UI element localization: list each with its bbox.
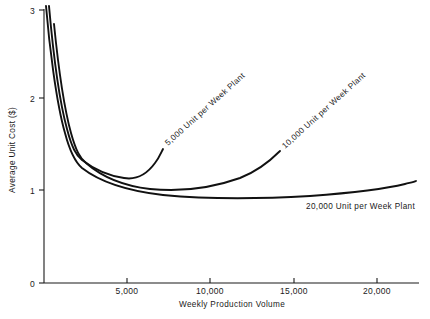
x-tick-label-15000: 15,000	[280, 286, 308, 296]
y-tick-label-3: 3	[30, 6, 35, 16]
curve-label-plant-10000: 10,000 Unit per Week Plant	[280, 71, 367, 151]
curve-label-plant-20000: 20,000 Unit per Week Plant	[306, 202, 415, 211]
curve-plant-20000	[46, 6, 416, 198]
y-axis-title: Average Unit Cost ($)	[8, 107, 17, 193]
x-tick-label-5000: 5,000	[116, 286, 139, 296]
y-tick-label-1: 1	[30, 186, 35, 196]
cost-curve-figure: 3 2 1 0 5,000 10,000 15,000 20,000 Avera…	[0, 0, 430, 319]
curve-plant-10000	[54, 24, 280, 190]
curve-plant-5000	[49, 6, 163, 178]
x-tick-label-10000: 10,000	[196, 286, 224, 296]
curve-label-plant-5000: 5,000 Unit per Week Plant	[163, 71, 247, 148]
y-tick-label-0: 0	[30, 279, 35, 289]
x-axis-title: Weekly Production Volume	[179, 300, 285, 309]
chart-canvas: 3 2 1 0 5,000 10,000 15,000 20,000 Avera…	[0, 0, 430, 319]
y-tick-label-2: 2	[30, 94, 35, 104]
x-tick-label-20000: 20,000	[363, 286, 391, 296]
